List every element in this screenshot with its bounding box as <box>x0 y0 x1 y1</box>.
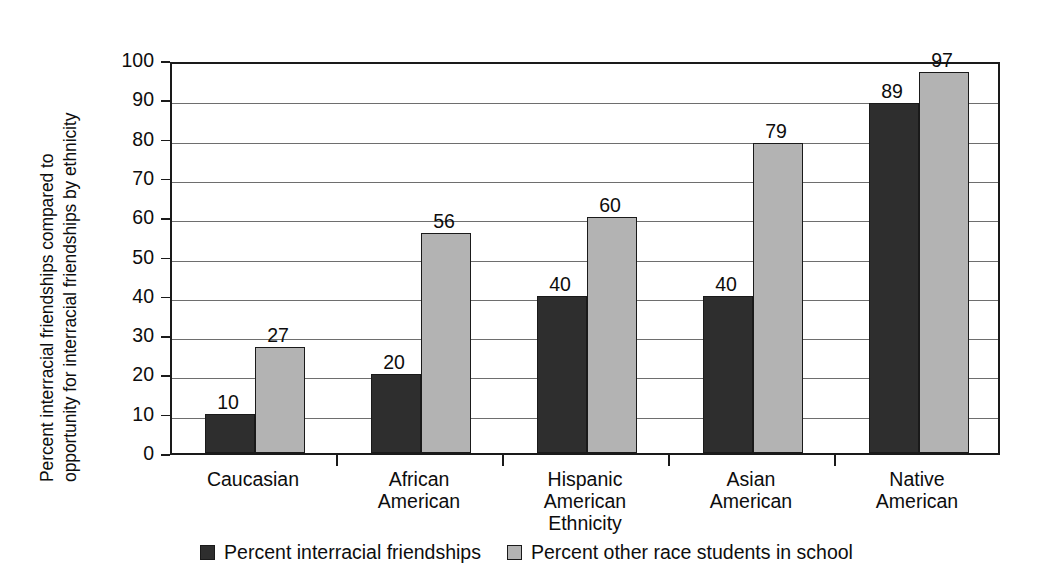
bar-value-label: 20 <box>383 351 405 374</box>
bar <box>869 103 919 453</box>
y-axis-tick-mark <box>161 297 170 299</box>
x-axis-label: Ethnicity <box>475 512 695 535</box>
y-axis-tick-label: 40 <box>108 285 154 308</box>
y-axis-tick-label: 80 <box>108 128 154 151</box>
bar <box>587 217 637 453</box>
y-axis-tick-label: 60 <box>108 206 154 229</box>
y-axis-tick-mark <box>161 375 170 377</box>
bar <box>205 414 255 453</box>
x-axis-category-label: NativeAmerican <box>812 468 1022 512</box>
legend-item-interracial-friendships[interactable]: Percent interracial friendships <box>200 541 481 564</box>
plot-area <box>170 62 1000 455</box>
bar <box>255 347 305 453</box>
x-axis-tick-mark <box>336 455 338 466</box>
y-axis-tick-mark <box>161 179 170 181</box>
bar-value-label: 60 <box>599 194 621 217</box>
bar-value-label: 97 <box>931 49 953 72</box>
legend-label: Percent interracial friendships <box>224 541 481 564</box>
y-axis-tick-mark <box>161 61 170 63</box>
y-axis-tick-mark <box>161 100 170 102</box>
x-axis-tick-mark <box>502 455 504 466</box>
bar <box>919 72 969 453</box>
y-axis-tick-mark <box>161 454 170 456</box>
chart-legend: Percent interracial friendships Percent … <box>0 541 1053 564</box>
legend-swatch-dark-icon <box>200 545 215 560</box>
x-axis-tick-mark <box>668 455 670 466</box>
bar <box>371 374 421 453</box>
x-axis-category-line: Native <box>812 468 1022 490</box>
bar-value-label: 89 <box>881 80 903 103</box>
bar-chart-figure: Percent interracial friendships compared… <box>0 0 1053 572</box>
bar-value-label: 79 <box>765 120 787 143</box>
y-axis-tick-label: 50 <box>108 246 154 269</box>
legend-item-other-race-students[interactable]: Percent other race students in school <box>507 541 853 564</box>
y-axis-tick-mark <box>161 336 170 338</box>
x-axis-category-line: American <box>812 490 1022 512</box>
legend-swatch-light-icon <box>507 545 522 560</box>
y-axis-tick-mark <box>161 415 170 417</box>
x-axis-tick-mark <box>834 455 836 466</box>
y-axis-tick-mark <box>161 218 170 220</box>
bar <box>537 296 587 453</box>
bar <box>753 143 803 453</box>
y-axis-tick-mark <box>161 258 170 260</box>
y-axis-label-line-2: opportunity for interracial friendships … <box>60 22 80 482</box>
bar <box>421 233 471 453</box>
bar-value-label: 27 <box>267 324 289 347</box>
bar <box>703 296 753 453</box>
y-axis-tick-label: 20 <box>108 363 154 386</box>
y-axis-tick-label: 10 <box>108 403 154 426</box>
bar-value-label: 40 <box>549 273 571 296</box>
bar-value-label: 56 <box>433 210 455 233</box>
y-axis-tick-label: 70 <box>108 167 154 190</box>
y-axis-tick-label: 100 <box>108 49 154 72</box>
y-axis-tick-label: 0 <box>108 442 154 465</box>
y-axis-label: Percent interracial friendships compared… <box>0 0 118 470</box>
bar-value-label: 40 <box>715 273 737 296</box>
bar-value-label: 10 <box>217 391 239 414</box>
y-axis-tick-label: 30 <box>108 324 154 347</box>
legend-label: Percent other race students in school <box>531 541 853 564</box>
y-axis-tick-label: 90 <box>108 88 154 111</box>
y-axis-label-line-1: Percent interracial friendships compared… <box>37 22 57 482</box>
y-axis-tick-mark <box>161 140 170 142</box>
